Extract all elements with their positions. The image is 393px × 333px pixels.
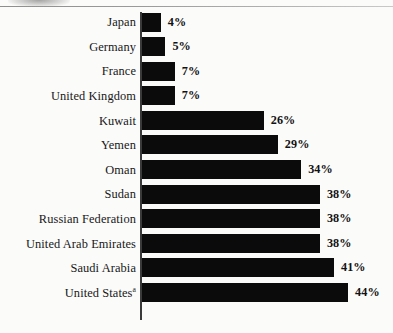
- bar-and-value: 41%: [142, 258, 366, 277]
- bar-row: France7%: [0, 59, 393, 84]
- bar-row: Sudan38%: [0, 182, 393, 207]
- bar-value-label: 44%: [355, 285, 380, 300]
- bar-row: Oman34%: [0, 158, 393, 183]
- scan-smudge-artifact: [8, 0, 70, 7]
- category-label-text: United Arab Emirates: [26, 237, 136, 251]
- bar-and-value: 38%: [142, 209, 352, 228]
- bar-row: Russian Federation38%: [0, 207, 393, 232]
- bar-value-label: 29%: [285, 137, 310, 152]
- category-label-text: Kuwait: [99, 114, 136, 128]
- bar-row: United Arab Emirates38%: [0, 231, 393, 256]
- category-label-text: Germany: [89, 40, 136, 54]
- bar: [142, 160, 301, 179]
- category-label: Yemen: [0, 138, 136, 152]
- bar: [142, 209, 320, 228]
- category-label: Japan: [0, 15, 136, 29]
- horizontal-bar-chart: Japan4%Germany5%France7%United Kingdom7%…: [0, 10, 393, 325]
- bar-rows-container: Japan4%Germany5%France7%United Kingdom7%…: [0, 10, 393, 305]
- bar-value-label: 41%: [341, 260, 366, 275]
- bar: [142, 13, 161, 32]
- category-label-text: Russian Federation: [39, 212, 136, 226]
- bar: [142, 135, 278, 154]
- category-label-text: Oman: [105, 163, 136, 177]
- bar: [142, 62, 175, 81]
- category-label-text: Saudi Arabia: [70, 261, 136, 275]
- bar: [142, 86, 175, 105]
- bar: [142, 234, 320, 253]
- category-label: France: [0, 64, 136, 78]
- category-label: Sudan: [0, 187, 136, 201]
- category-label: United Kingdom: [0, 89, 136, 103]
- category-label-text: Yemen: [101, 138, 136, 152]
- bar-value-label: 7%: [182, 88, 200, 103]
- category-label-text: France: [102, 64, 136, 78]
- bar-and-value: 29%: [142, 135, 309, 154]
- bar-value-label: 38%: [327, 236, 352, 251]
- bar-row: United Kingdom7%: [0, 84, 393, 109]
- bar-and-value: 5%: [142, 37, 191, 56]
- bar-and-value: 26%: [142, 111, 295, 130]
- category-label: United Arab Emirates: [0, 237, 136, 251]
- bar-row: Germany5%: [0, 35, 393, 60]
- category-label: Germany: [0, 40, 136, 54]
- bar-value-label: 7%: [182, 64, 200, 79]
- category-label: Kuwait: [0, 114, 136, 128]
- footnote-marker: a: [133, 285, 136, 294]
- bar-and-value: 38%: [142, 185, 352, 204]
- bar-and-value: 34%: [142, 160, 333, 179]
- category-label-text: Sudan: [105, 187, 136, 201]
- bar-value-label: 26%: [271, 113, 296, 128]
- category-label-text: United Kingdom: [51, 89, 136, 103]
- bar-value-label: 5%: [172, 39, 190, 54]
- category-label: Russian Federation: [0, 212, 136, 226]
- category-label: Oman: [0, 163, 136, 177]
- category-label: United Statesa: [0, 286, 136, 300]
- category-label: Saudi Arabia: [0, 261, 136, 275]
- category-label-text: Japan: [107, 15, 136, 29]
- category-label-text: United States: [65, 286, 133, 300]
- bar-value-label: 38%: [327, 211, 352, 226]
- bar-and-value: 4%: [142, 13, 186, 32]
- bar: [142, 185, 320, 204]
- bar-row: Saudi Arabia41%: [0, 256, 393, 281]
- bar-row: Yemen29%: [0, 133, 393, 158]
- bar-value-label: 34%: [308, 162, 333, 177]
- bar: [142, 283, 348, 302]
- bar-row: Kuwait26%: [0, 108, 393, 133]
- bar-value-label: 38%: [327, 187, 352, 202]
- bar-and-value: 38%: [142, 234, 352, 253]
- bar-value-label: 4%: [168, 15, 186, 30]
- bar-row: United Statesa44%: [0, 281, 393, 306]
- bar: [142, 258, 334, 277]
- bar-row: Japan4%: [0, 10, 393, 35]
- bar-and-value: 7%: [142, 86, 200, 105]
- bar: [142, 37, 165, 56]
- bar: [142, 111, 264, 130]
- bar-and-value: 7%: [142, 62, 200, 81]
- bar-and-value: 44%: [142, 283, 380, 302]
